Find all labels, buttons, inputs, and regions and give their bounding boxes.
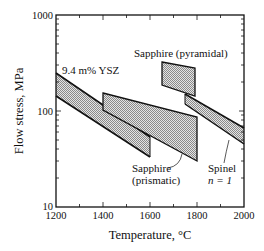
x-tick-2000: 2000 <box>234 210 255 221</box>
label-sapphire-prismatic-1: Sapphire <box>132 162 171 174</box>
label-spinel-2: n = 1 <box>208 174 232 186</box>
flow-stress-chart: 1000 100 10 1200 1400 1600 1800 2000 Tem… <box>0 0 264 251</box>
y-tick-100: 100 <box>37 106 53 117</box>
x-tick-1400: 1400 <box>93 210 114 221</box>
label-sapphire-pyramidal: Sapphire (pyramidal) <box>134 47 228 60</box>
label-sapphire-prismatic-2: (prismatic) <box>132 174 181 187</box>
x-axis-label: Temperature, °C <box>109 228 192 242</box>
x-tick-1800: 1800 <box>187 210 208 221</box>
leader-spinel <box>224 140 229 163</box>
x-tick-1600: 1600 <box>140 210 161 221</box>
x-tick-1200: 1200 <box>46 210 67 221</box>
label-spinel-1: Spinel <box>208 162 236 174</box>
y-tick-1000: 1000 <box>32 10 53 21</box>
label-ysz: 9.4 m% YSZ <box>62 64 120 76</box>
y-axis-label: Flow stress, MPa <box>12 67 26 154</box>
band-sapphire-pyramidal <box>162 62 195 96</box>
